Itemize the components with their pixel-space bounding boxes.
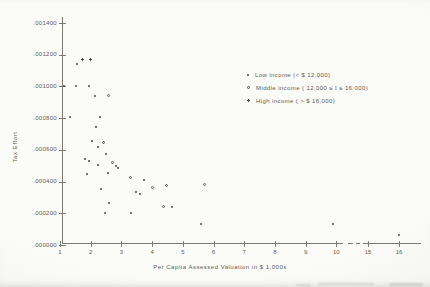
middle-income-marker-icon (247, 86, 250, 89)
x-axis-line-left (62, 243, 343, 244)
x-tick-label: 16 (391, 249, 407, 256)
x-tick-label: 8 (267, 249, 283, 256)
data-point (100, 188, 102, 190)
y-tick-label: .000600 (24, 146, 57, 153)
x-tick-label: 1 (52, 249, 68, 256)
data-point (135, 191, 137, 193)
scanned-page: Tax Effort .001400.001200.001000.000800.… (0, 0, 430, 287)
legend-label-low: Low income (< $ 12,000) (255, 72, 330, 78)
x-tick-label: 3 (113, 249, 129, 256)
x-tick-mark (91, 241, 92, 247)
data-point (75, 85, 77, 87)
x-tick-label: 10 (328, 249, 344, 256)
data-point (104, 212, 106, 214)
data-point (171, 206, 173, 208)
data-point (203, 183, 206, 186)
scan-artifact (318, 283, 374, 285)
data-point (69, 116, 71, 118)
x-tick-mark (336, 241, 337, 247)
data-point (84, 158, 86, 160)
y-tick-label: .000800 (24, 115, 57, 122)
x-axis-break-dash-1 (348, 243, 353, 244)
legend-item-middle: Middle income ( 12,000 ≤ I ≤ 16,000) (247, 81, 368, 94)
data-point (88, 85, 90, 87)
data-point (76, 63, 78, 65)
y-axis-title: Tax Effort (12, 131, 18, 162)
high-income-marker-icon (247, 99, 250, 102)
x-tick-label: 9 (298, 249, 314, 256)
y-tick-mark (59, 23, 66, 24)
x-tick-mark (244, 241, 245, 247)
data-point (81, 58, 84, 61)
data-point (332, 223, 334, 225)
y-tick-label: .001400 (24, 20, 57, 27)
data-point (94, 95, 96, 97)
x-tick-label: 2 (83, 249, 99, 256)
x-tick-mark (214, 241, 215, 247)
y-axis-line (62, 17, 63, 244)
x-tick-mark (306, 241, 307, 247)
y-tick-mark (59, 55, 66, 56)
x-axis-break-dash-2 (356, 243, 360, 244)
legend-item-high: High income ( > $ 16,000) (247, 94, 368, 107)
x-tick-label: 7 (236, 249, 252, 256)
y-tick-mark (59, 182, 66, 183)
data-point (151, 186, 154, 189)
x-axis-line-right (363, 243, 421, 244)
data-point (86, 173, 88, 175)
x-tick-mark (399, 241, 400, 247)
y-tick-label: .001000 (24, 83, 57, 90)
y-tick-mark (59, 150, 66, 151)
y-tick-label: .000400 (24, 178, 57, 185)
x-tick-label: 4 (144, 249, 160, 256)
data-point (117, 167, 119, 169)
data-point (398, 234, 400, 236)
y-tick-label: .000200 (24, 210, 57, 217)
legend-item-low: Low income (< $ 12,000) (247, 68, 368, 81)
data-point (108, 202, 110, 204)
x-tick-label: 5 (175, 249, 191, 256)
data-point (105, 153, 107, 155)
data-point (200, 223, 202, 225)
scan-artifact (389, 283, 423, 286)
x-tick-mark (152, 241, 153, 247)
y-tick-mark (59, 213, 66, 214)
data-point (115, 165, 117, 167)
data-point (130, 212, 132, 214)
data-point (97, 146, 99, 148)
x-tick-mark (60, 241, 61, 247)
data-point (95, 126, 97, 128)
x-tick-mark (183, 241, 184, 247)
data-point (107, 94, 110, 97)
data-point (88, 160, 90, 162)
x-tick-mark (368, 241, 369, 247)
x-tick-label: 6 (206, 249, 222, 256)
data-point (162, 205, 165, 208)
data-point (102, 141, 105, 144)
x-tick-label: 15 (360, 249, 376, 256)
data-point (107, 172, 109, 174)
x-axis-title: Per Capita Assessed Valuation in $ 1,000… (62, 264, 378, 270)
low-income-marker-icon (247, 74, 249, 76)
y-tick-mark (59, 118, 66, 119)
data-point (111, 161, 114, 164)
x-tick-mark (121, 241, 122, 247)
data-point (129, 176, 132, 179)
legend: Low income (< $ 12,000) Middle income ( … (247, 68, 368, 107)
data-point (91, 140, 93, 142)
data-point (89, 58, 92, 61)
legend-label-high: High income ( > $ 16,000) (256, 98, 335, 104)
y-tick-label: .001200 (24, 51, 57, 58)
scan-artifact (296, 284, 311, 286)
data-point (99, 116, 101, 118)
data-point (143, 179, 145, 181)
data-point (139, 193, 141, 195)
data-point (165, 184, 168, 187)
y-tick-label: .000000 (24, 242, 57, 249)
x-tick-mark (275, 241, 276, 247)
data-point (97, 164, 99, 166)
legend-label-middle: Middle income ( 12,000 ≤ I ≤ 16,000) (256, 85, 368, 91)
scatter-chart: Tax Effort .001400.001200.001000.000800.… (0, 0, 430, 287)
